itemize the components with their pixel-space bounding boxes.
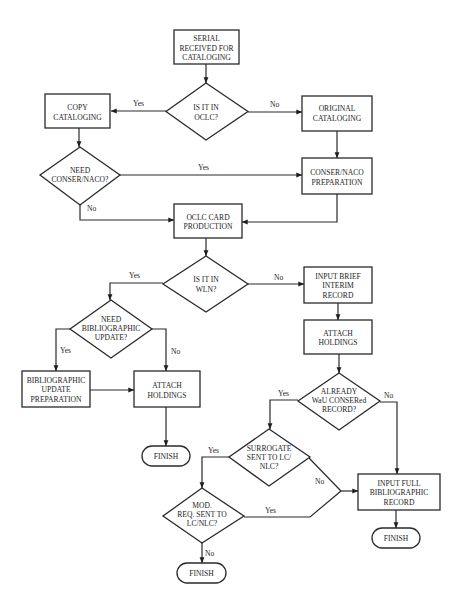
edge-label-surrogate-yes: Yes [208, 446, 219, 455]
node-copy-cataloging: COPY CATALOGING [45, 94, 110, 128]
node-label: NLC? [260, 462, 279, 471]
node-label: OCLC? [194, 113, 218, 122]
edge-label-biblio-yes: Yes [60, 346, 71, 355]
node-label: WaU CONSERed [312, 396, 367, 405]
node-label: MOD. [192, 501, 212, 510]
decision-need-conser-naco: NEED CONSER/NACO? [40, 147, 120, 205]
node-label: HOLDINGS [148, 391, 187, 400]
edge-already-yes [270, 400, 298, 429]
node-label: PREPARATION [31, 395, 82, 404]
node-label: FINISH [189, 569, 214, 578]
edge-label-wln-no: No [274, 273, 283, 282]
node-label: INTERIM [322, 281, 354, 290]
decision-surrogate-sent: SURROGATE SENT TO LC/ NLC? [229, 429, 310, 486]
node-oclc-card-production: OCLC CARD PRODUCTION [174, 204, 242, 238]
node-label: INPUT BRIEF [315, 272, 361, 281]
node-label: REQ. SENT TO [177, 510, 227, 519]
terminal-finish-bottom: FINISH [177, 563, 226, 583]
node-label: COPY [67, 103, 88, 112]
node-input-full-bibliographic-record: INPUT FULL BIBLIOGRAPHIC RECORD [358, 474, 440, 510]
node-label: SENT TO LC/ [247, 453, 292, 462]
node-label: ALREADY [321, 387, 358, 396]
edge-prep-to-card [242, 194, 337, 222]
terminal-finish-left: FINISH [142, 446, 190, 466]
node-label: FINISH [384, 534, 409, 543]
node-label: RECORD [384, 498, 415, 507]
node-attach-holdings-right: ATTACH HOLDINGS [304, 320, 372, 354]
node-label: CONSER/NACO? [52, 175, 110, 184]
edge-biblio-no [152, 329, 166, 371]
terminal-finish-right: FINISH [372, 528, 420, 548]
edge-label-oclc-yes: Yes [133, 99, 144, 108]
node-label: BIBLIOGRAPHIC [27, 376, 86, 385]
decision-is-in-oclc: IS IT IN OCLC? [166, 83, 248, 140]
edge-label-already-no: No [384, 391, 393, 400]
node-label: BIBLIOGRAPHIC [82, 324, 141, 333]
node-label: CATALOGING [313, 114, 362, 123]
edge-label-oclc-no: No [270, 100, 279, 109]
edge-label-surrogate-no: No [315, 477, 324, 486]
node-label: LC/NLC? [187, 519, 218, 528]
node-input-brief-interim-record: INPUT BRIEF INTERIM RECORD [304, 267, 372, 303]
edge-label-wln-yes: Yes [129, 271, 140, 280]
decision-need-bibliographic-update: NEED BIBLIOGRAPHIC UPDATE? [70, 300, 152, 358]
node-label: OCLC CARD [186, 213, 230, 222]
edge-label-conser-no: No [87, 204, 96, 213]
node-conser-naco-preparation: CONSER/NACO PREPARATION [302, 158, 372, 194]
node-label: SERIAL [193, 34, 220, 43]
edge-mod-yes [244, 491, 341, 517]
node-label: ATTACH [323, 329, 353, 338]
edge-label-biblio-no: No [171, 347, 180, 356]
decision-already-conser-record: ALREADY WaU CONSERed RECORD? [298, 373, 380, 430]
node-label: PREPARATION [312, 178, 363, 187]
node-label: CATALOGING [182, 53, 231, 62]
decision-mod-req-sent: MOD. REQ. SENT TO LC/NLC? [163, 488, 244, 543]
flowchart: SERIAL RECEIVED FOR CATALOGING IS IT IN … [0, 0, 466, 607]
node-label: RECORD? [322, 405, 357, 414]
node-label: RECORD [323, 291, 354, 300]
node-label: UPDATE [41, 385, 70, 394]
edge-label-conser-yes: Yes [198, 163, 209, 172]
node-label: WLN? [196, 285, 217, 294]
node-original-cataloging: ORIGINAL CATALOGING [302, 96, 372, 131]
node-label: IS IT IN [193, 275, 219, 284]
node-label: IS IT IN [193, 103, 219, 112]
node-label: ATTACH [152, 381, 182, 390]
node-label: CATALOGING [53, 113, 102, 122]
node-label: CONSER/NACO [310, 168, 364, 177]
edge-label-mod-yes: Yes [265, 506, 276, 515]
edge-label-already-yes: Yes [278, 389, 289, 398]
node-bibliographic-update-preparation: BIBLIOGRAPHIC UPDATE PREPARATION [22, 371, 90, 407]
node-label: NEED [70, 166, 91, 175]
decision-is-in-wln: IS IT IN WLN? [163, 256, 248, 312]
node-serial-received: SERIAL RECEIVED FOR CATALOGING [174, 30, 239, 64]
node-label: SURROGATE [247, 444, 292, 453]
edge-surrogate-yes [202, 457, 229, 488]
node-label: ORIGINAL [319, 104, 356, 113]
node-label: NEED [101, 315, 122, 324]
node-attach-holdings-left: ATTACH HOLDINGS [134, 371, 200, 407]
node-label: BIBLIOGRAPHIC [370, 488, 429, 497]
node-label: INPUT FULL [377, 479, 420, 488]
node-label: HOLDINGS [319, 338, 358, 347]
edge-wln-yes [110, 283, 163, 300]
edge-surrogate-no [309, 458, 341, 491]
node-label: UPDATE? [95, 333, 128, 342]
edge-already-no [380, 402, 397, 474]
node-label: FINISH [154, 452, 179, 461]
node-label: PRODUCTION [184, 222, 233, 231]
node-label: RECEIVED FOR [179, 44, 234, 53]
edge-label-mod-no: No [205, 549, 214, 558]
